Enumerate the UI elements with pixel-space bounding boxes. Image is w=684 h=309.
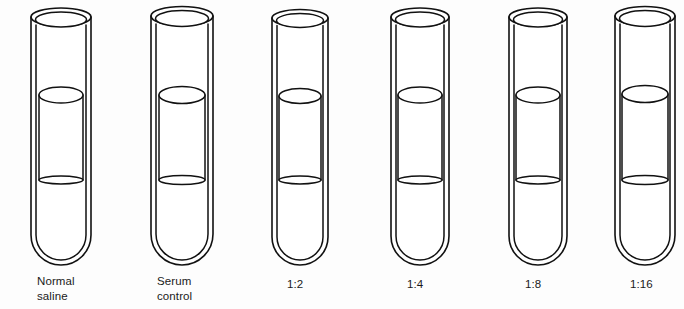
tube-serum-control-label: Serum control [157, 274, 192, 303]
tube-outer-wall [509, 17, 567, 265]
tube-1-2-label: 1:2 [287, 277, 303, 292]
upper-liquid-meniscus [279, 89, 321, 104]
tube-outer-wall [151, 16, 213, 265]
tube-rim-opening [514, 12, 563, 27]
tube-rim-opening [36, 12, 87, 27]
tube-rim-opening [277, 14, 324, 28]
lower-liquid-level [398, 176, 442, 184]
tube-1-8-label: 1:8 [525, 277, 541, 292]
upper-liquid-meniscus [622, 86, 668, 103]
lower-liquid-level [159, 176, 205, 185]
tube-serum-control [151, 7, 213, 266]
upper-liquid-meniscus [516, 87, 560, 103]
tube-1-16-label: 1:16 [630, 277, 653, 292]
lower-liquid-level [622, 176, 668, 185]
tube-rim-opening [156, 11, 209, 27]
test-tube-dilution-figure: Normal salineSerum control1:21:41:81:16 [0, 0, 684, 309]
tube-1-8 [509, 8, 567, 265]
tube-rim-opening [396, 12, 445, 27]
tube-outer-wall [615, 16, 675, 265]
tube-normal-saline-label: Normal saline [37, 274, 75, 303]
tube-outer-wall [391, 17, 449, 265]
lower-liquid-level [39, 176, 83, 184]
tube-1-4 [391, 8, 449, 265]
test-tube-row-illustration [0, 0, 684, 309]
tube-outer-wall [272, 18, 328, 265]
tube-rim-opening [620, 11, 671, 27]
lower-liquid-level [279, 176, 321, 184]
tube-1-16 [615, 7, 675, 266]
tube-outer-wall [31, 17, 91, 265]
upper-liquid-meniscus [39, 87, 83, 103]
tube-1-2 [272, 10, 328, 266]
upper-liquid-meniscus [159, 87, 205, 104]
lower-liquid-level [516, 176, 560, 184]
upper-liquid-meniscus [398, 87, 442, 103]
tube-1-4-label: 1:4 [407, 277, 423, 292]
tube-normal-saline [31, 8, 91, 265]
